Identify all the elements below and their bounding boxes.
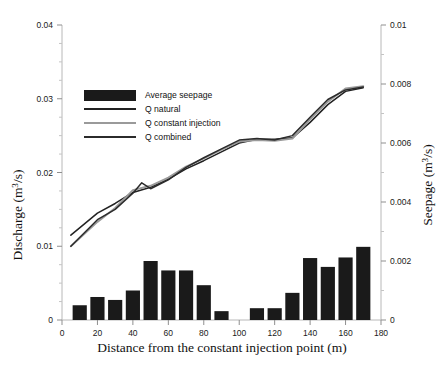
y-tick-label-left: 0.04	[36, 20, 53, 30]
seepage-bar	[179, 270, 193, 320]
x-tick-label: 60	[164, 328, 174, 338]
y-tick-label-right: 0.004	[390, 197, 412, 207]
x-tick-label: 180	[374, 328, 388, 338]
seepage-bar	[268, 308, 282, 320]
x-tick-label: 120	[268, 328, 282, 338]
seepage-bar	[73, 305, 87, 320]
legend-label: Q combined	[145, 132, 192, 142]
seepage-bar	[214, 311, 228, 320]
y-tick-label-right: 0.008	[390, 79, 412, 89]
legend-label: Q constant injection	[145, 118, 221, 128]
y-axis-left-title: Discharge (m3/s)	[10, 170, 25, 261]
x-tick-label: 100	[232, 328, 246, 338]
y-tick-label-right: 0	[390, 315, 395, 325]
x-tick-label: 20	[93, 328, 103, 338]
x-tick-label: 80	[199, 328, 209, 338]
seepage-bar	[321, 267, 335, 320]
seepage-bar	[285, 293, 299, 320]
seepage-bar	[126, 291, 140, 321]
y-tick-label-left: 0.02	[36, 168, 53, 178]
y-tick-label-right: 0.002	[390, 256, 412, 266]
seepage-bar	[338, 257, 352, 320]
x-axis-title: Distance from the constant injection poi…	[97, 340, 347, 355]
x-tick-label: 160	[338, 328, 352, 338]
seepage-bar	[197, 285, 211, 320]
chart-background	[0, 0, 446, 366]
y-tick-label-left: 0.01	[36, 241, 53, 251]
y-tick-label-right: 0.006	[390, 138, 412, 148]
x-tick-label: 0	[60, 328, 65, 338]
y-tick-label-right: 0.01	[390, 20, 407, 30]
y-axis-right-title: Seepage (m3/s)	[420, 144, 435, 225]
seepage-bar	[356, 247, 370, 320]
seepage-bar	[108, 300, 122, 320]
seepage-bar	[250, 308, 264, 320]
y-tick-label-left: 0	[48, 315, 53, 325]
x-tick-label: 140	[303, 328, 317, 338]
legend-label: Q natural	[145, 104, 180, 114]
seepage-bar	[303, 258, 317, 320]
seepage-bar	[90, 297, 104, 320]
legend-label: Average seepage	[145, 90, 212, 100]
seepage-bar	[161, 270, 175, 320]
seepage-bar	[144, 261, 158, 320]
y-tick-label-left: 0.03	[36, 94, 53, 104]
legend-swatch-bar	[84, 90, 136, 101]
seepage-discharge-chart: 00.010.020.030.04 00.0020.0040.0060.0080…	[0, 0, 446, 366]
x-tick-label: 40	[128, 328, 138, 338]
